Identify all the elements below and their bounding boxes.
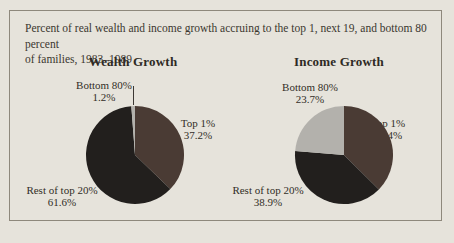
income-growth-title: Income Growth	[294, 54, 384, 70]
wealth-growth-title: Wealth Growth	[89, 54, 178, 70]
slice-name: Bottom 80%	[76, 79, 132, 91]
caption-line-1: Percent of real wealth and income growth…	[25, 21, 437, 52]
income-growth-pie	[289, 100, 399, 210]
pie-slice-bottom-80-	[295, 106, 344, 155]
wealth-growth-pie	[80, 100, 190, 210]
slice-name: Bottom 80%	[282, 81, 338, 93]
figure-canvas: Percent of real wealth and income growth…	[0, 0, 454, 243]
